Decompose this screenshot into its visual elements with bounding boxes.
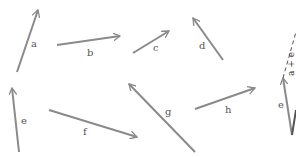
vector-e-label: e <box>21 116 27 126</box>
vector-h-label: h <box>225 105 231 115</box>
vector-arrows <box>12 10 255 152</box>
vector-g-label: g <box>165 107 171 117</box>
vector-d-arrow <box>193 18 223 60</box>
vector-f-arrow <box>49 110 137 137</box>
partial-sum-figure <box>283 32 296 135</box>
vector-c-label: c <box>153 43 159 53</box>
partial-e-label: e <box>278 100 284 110</box>
vector-d-label: d <box>199 41 205 51</box>
vector-diagram <box>0 0 296 157</box>
vector-b-arrow <box>57 36 120 45</box>
vector-b-label: b <box>87 48 93 58</box>
partial-sum-label: a + e <box>286 52 296 76</box>
vector-f-label: f <box>83 127 87 137</box>
vector-a-label: a <box>31 39 37 49</box>
vector-g-arrow <box>129 84 195 152</box>
partial-e-arrow <box>283 78 292 135</box>
vector-c-arrow <box>133 31 169 53</box>
partial-dark-line <box>292 110 296 135</box>
vector-e-arrow <box>12 88 19 152</box>
